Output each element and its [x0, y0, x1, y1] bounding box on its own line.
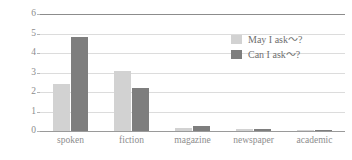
- y-tick-label: 3: [24, 68, 36, 78]
- bar-magazine-can-i-ask: [193, 126, 210, 131]
- y-tick-label: 4: [24, 48, 36, 58]
- legend-item-may-i-ask: May I ask〜?: [231, 34, 302, 45]
- x-axis: spoken fiction magazine newspaper academ…: [40, 135, 345, 145]
- y-tick-label: 5: [24, 29, 36, 39]
- x-tick-label-magazine: magazine: [162, 135, 223, 145]
- bar-group-magazine: [162, 14, 223, 131]
- bar-academic-may-i-ask: [297, 130, 314, 131]
- bar-group-academic: [284, 14, 345, 131]
- x-tick-label-spoken: spoken: [40, 135, 101, 145]
- legend-swatch-icon: [231, 35, 242, 44]
- y-tick-label: 6: [24, 9, 36, 19]
- bar-group-newspaper: [223, 14, 284, 131]
- x-tick-label-newspaper: newspaper: [223, 135, 284, 145]
- bar-group-fiction: [101, 14, 162, 131]
- bar-magazine-may-i-ask: [175, 128, 192, 131]
- bar-spoken-may-i-ask: [53, 84, 70, 131]
- bar-group-spoken: [40, 14, 101, 131]
- bar-fiction-can-i-ask: [132, 88, 149, 131]
- bar-academic-can-i-ask: [315, 130, 332, 131]
- legend-swatch-icon: [231, 50, 242, 59]
- bar-fiction-may-i-ask: [114, 71, 131, 131]
- legend-label: Can I ask〜?: [248, 50, 300, 60]
- legend-item-can-i-ask: Can I ask〜?: [231, 49, 302, 60]
- x-tick-label-academic: academic: [284, 135, 345, 145]
- bar-newspaper-may-i-ask: [236, 129, 253, 131]
- legend: May I ask〜? Can I ask〜?: [231, 34, 302, 60]
- bar-chart: 6 5 4 3 2 1 0: [0, 0, 352, 160]
- y-tick-label: 1: [24, 107, 36, 117]
- bar-spoken-can-i-ask: [71, 37, 88, 131]
- y-tick-label: 2: [24, 87, 36, 97]
- plot-area: [40, 14, 345, 131]
- bar-groups: [40, 14, 345, 131]
- bar-newspaper-can-i-ask: [254, 129, 271, 131]
- gridline-0-baseline: [40, 131, 345, 132]
- x-tick-label-fiction: fiction: [101, 135, 162, 145]
- legend-label: May I ask〜?: [248, 35, 302, 45]
- y-tick-label: 0: [24, 126, 36, 136]
